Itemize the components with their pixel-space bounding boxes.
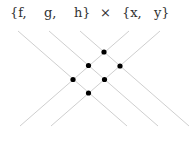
dot-g-y xyxy=(102,77,107,82)
dot-g-x xyxy=(86,63,91,68)
dot-f-x xyxy=(70,77,75,82)
line-h xyxy=(80,31,189,126)
dot-h-x xyxy=(101,49,106,54)
dot-f-y xyxy=(86,90,91,95)
product-lattice xyxy=(0,0,193,141)
dot-h-y xyxy=(117,63,122,68)
